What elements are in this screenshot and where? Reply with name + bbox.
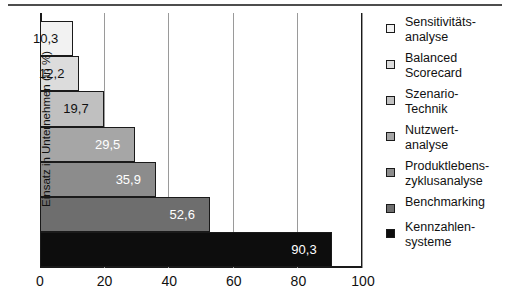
x-tick-label-80: 80	[291, 272, 307, 290]
legend-item-label: Produktlebens- zyklusanalyse	[405, 159, 489, 188]
bar-row: 12,2	[40, 56, 363, 91]
bar-value-label: 90,3	[291, 243, 330, 256]
bar[interactable]: 29,5	[40, 127, 135, 162]
legend-item-label: Kennzahlen- systeme	[405, 220, 475, 249]
legend-item-label: Szenario- Technik	[405, 87, 459, 116]
x-tick-label-100: 100	[351, 272, 374, 290]
bar-value-label: 52,6	[170, 208, 209, 221]
legend-swatch-icon	[386, 168, 395, 177]
legend-item[interactable]: Kennzahlen- systeme	[386, 220, 508, 249]
bar-value-label: 29,5	[95, 138, 134, 151]
bar-chart-figure: 10,312,219,729,535,952,690,3 Einsatz in …	[0, 0, 510, 303]
bar[interactable]: 35,9	[40, 162, 156, 197]
legend-item-label: Balanced Scorecard	[405, 51, 462, 80]
legend-item-label: Sensitivitäts- analyse	[405, 15, 476, 44]
legend-item[interactable]: Balanced Scorecard	[386, 51, 508, 80]
bar-value-label: 10,3	[33, 32, 72, 45]
bar-row: 19,7	[40, 91, 363, 126]
bar-row: 29,5	[40, 127, 363, 162]
legend-item[interactable]: Sensitivitäts- analyse	[386, 15, 508, 44]
legend-swatch-icon	[386, 229, 395, 238]
chart-legend: Sensitivitäts- analyseBalanced Scorecard…	[386, 15, 508, 256]
bar-value-label: 19,7	[63, 102, 102, 115]
legend-swatch-icon	[386, 132, 395, 141]
bar-series: 10,312,219,729,535,952,690,3	[40, 21, 363, 268]
legend-swatch-icon	[386, 24, 395, 33]
bar-row: 10,3	[40, 21, 363, 56]
bar[interactable]: 52,6	[40, 197, 210, 232]
legend-item[interactable]: Produktlebens- zyklusanalyse	[386, 159, 508, 188]
legend-swatch-icon	[386, 204, 395, 213]
page-top-rule	[8, 4, 502, 6]
bar[interactable]: 90,3	[40, 232, 332, 267]
legend-item-label: Nutzwert- analyse	[405, 123, 458, 152]
x-tick-label-60: 60	[226, 272, 242, 290]
y-axis-title: Einsatz in Unternehmen (in %)	[40, 0, 52, 279]
x-tick-label-20: 20	[97, 272, 113, 290]
bar-row: 35,9	[40, 162, 363, 197]
legend-item[interactable]: Benchmarking	[386, 195, 508, 213]
legend-item[interactable]: Szenario- Technik	[386, 87, 508, 116]
x-axis-tick-labels: 020406080100	[0, 272, 510, 294]
bar-row: 90,3	[40, 232, 363, 267]
legend-swatch-icon	[386, 96, 395, 105]
bar-value-label: 35,9	[116, 173, 155, 186]
plot-area: 10,312,219,729,535,952,690,3 Einsatz in …	[40, 13, 363, 268]
bar-row: 52,6	[40, 197, 363, 232]
legend-item-label: Benchmarking	[405, 195, 485, 210]
x-tick-label-0: 0	[36, 272, 44, 290]
legend-swatch-icon	[386, 60, 395, 69]
legend-item[interactable]: Nutzwert- analyse	[386, 123, 508, 152]
x-tick-label-40: 40	[161, 272, 177, 290]
